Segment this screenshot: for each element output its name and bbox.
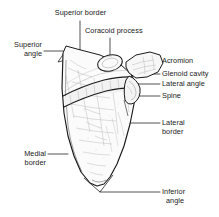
label-coracoid-process: Coracoid process xyxy=(85,27,165,36)
label-superior-angle-line2: angle xyxy=(0,50,42,59)
glenoid-cavity xyxy=(124,76,140,104)
scapula-diagram: Superior border Coracoid process Superio… xyxy=(0,0,219,217)
label-lateral-border-line2: border xyxy=(162,128,217,137)
label-spine: Spine xyxy=(162,92,212,101)
label-medial-border-line2: border xyxy=(0,159,46,168)
label-lateral-angle: Lateral angle xyxy=(162,80,219,89)
label-glenoid-cavity: Glenoid cavity xyxy=(162,70,219,79)
label-inferior-angle-line2: angle xyxy=(166,197,218,206)
label-acromion: Acromion xyxy=(162,57,219,66)
label-superior-border: Superior border xyxy=(43,9,118,18)
